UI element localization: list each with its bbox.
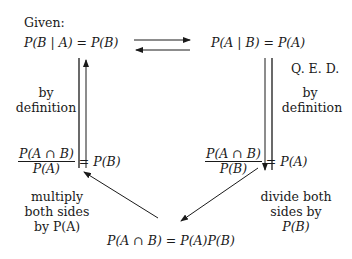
- left-edge-label-2: definition: [14, 101, 78, 115]
- divide-label-3: P(B): [256, 220, 336, 234]
- mid-right-denominator: P(B): [220, 162, 247, 176]
- given-equation: P(B | A) = P(B): [24, 36, 118, 50]
- mid-left-equation: P(A ∩ B)P(A) = P(B): [18, 147, 121, 176]
- mid-left-denominator: P(A): [33, 162, 60, 176]
- bottom-equation: P(A ∩ B) = P(A)P(B): [107, 234, 235, 248]
- left-edge-label-1: by: [18, 86, 74, 100]
- divide-label-2: sides by: [256, 205, 336, 219]
- arrow-diagonal-left: [84, 172, 158, 218]
- right-edge-label-1: by: [282, 86, 338, 100]
- mid-right-rhs: = P(A): [266, 154, 308, 169]
- qed-label: Q. E. D.: [291, 62, 339, 76]
- right-edge-label-2: definition: [280, 101, 344, 115]
- multiply-label-3: by P(A): [22, 220, 92, 234]
- divide-label-1: divide both: [256, 190, 336, 204]
- mid-right-numerator: P(A ∩ B): [205, 147, 262, 162]
- mid-right-equation: P(A ∩ B)P(B) = P(A): [205, 147, 307, 176]
- given-label: Given:: [24, 16, 65, 30]
- multiply-label-1: multiply: [22, 190, 92, 204]
- mid-left-numerator: P(A ∩ B): [18, 147, 75, 162]
- multiply-label-2: both sides: [22, 205, 92, 219]
- mid-left-rhs: = P(B): [79, 154, 121, 169]
- target-equation: P(A | B) = P(A): [211, 36, 305, 50]
